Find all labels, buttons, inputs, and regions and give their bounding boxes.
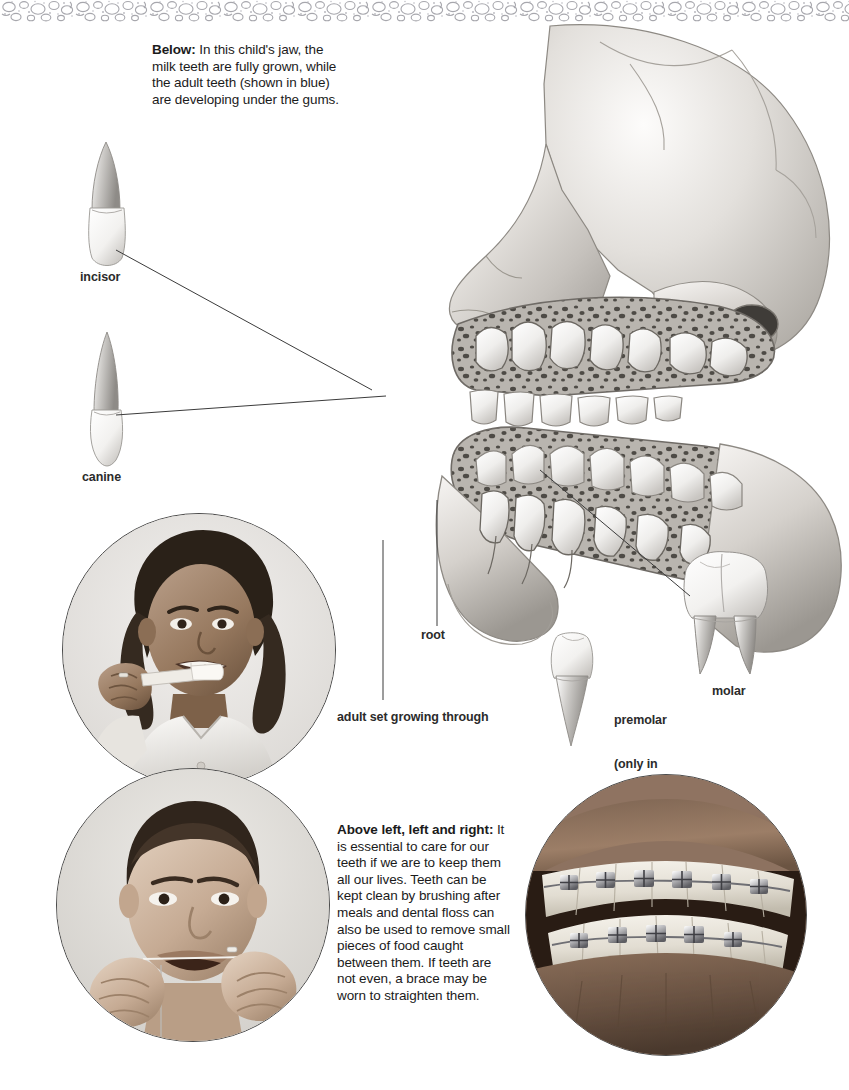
- molar-crown: [684, 552, 768, 618]
- decorative-top-band: [0, 0, 849, 22]
- incisor-crown: [89, 208, 126, 266]
- label-molar: molar: [712, 684, 746, 699]
- caption-bottom: Above left, left and right: It is essent…: [337, 822, 513, 1005]
- label-root: root: [421, 628, 445, 643]
- canine-tooth-diagram: [76, 330, 138, 470]
- canine-crown: [90, 410, 122, 466]
- caption-bottom-body: It is essential to care for our teeth if…: [337, 822, 510, 1003]
- caption-bottom-lead: Above left, left and right:: [337, 822, 493, 837]
- label-canine: canine: [82, 470, 121, 485]
- label-premolar-line2: (only in: [614, 757, 669, 772]
- label-premolar-line1: premolar: [614, 713, 669, 728]
- photo-teeth-with-braces: [525, 774, 807, 1056]
- molar-root-mesial: [694, 616, 716, 674]
- premolar-crown: [551, 633, 593, 678]
- molar-tooth-diagram: [670, 548, 780, 676]
- label-adult-set-growing-through: adult set growing through: [337, 710, 489, 725]
- photo-girl-brushing-teeth: [62, 513, 336, 787]
- label-incisor: incisor: [80, 270, 120, 285]
- incisor-root: [92, 142, 120, 210]
- premolar-tooth-diagram: [540, 630, 604, 750]
- caption-top: Below: In this child's jaw, the milk tee…: [152, 42, 342, 108]
- caption-top-lead: Below:: [152, 42, 196, 57]
- upper-milk-teeth: [470, 390, 682, 426]
- incisor-tooth-diagram: [76, 140, 138, 270]
- photo-boy-flossing-teeth: [56, 768, 330, 1042]
- molar-root-distal: [734, 616, 756, 674]
- premolar-root: [556, 676, 588, 746]
- canine-root: [94, 332, 118, 412]
